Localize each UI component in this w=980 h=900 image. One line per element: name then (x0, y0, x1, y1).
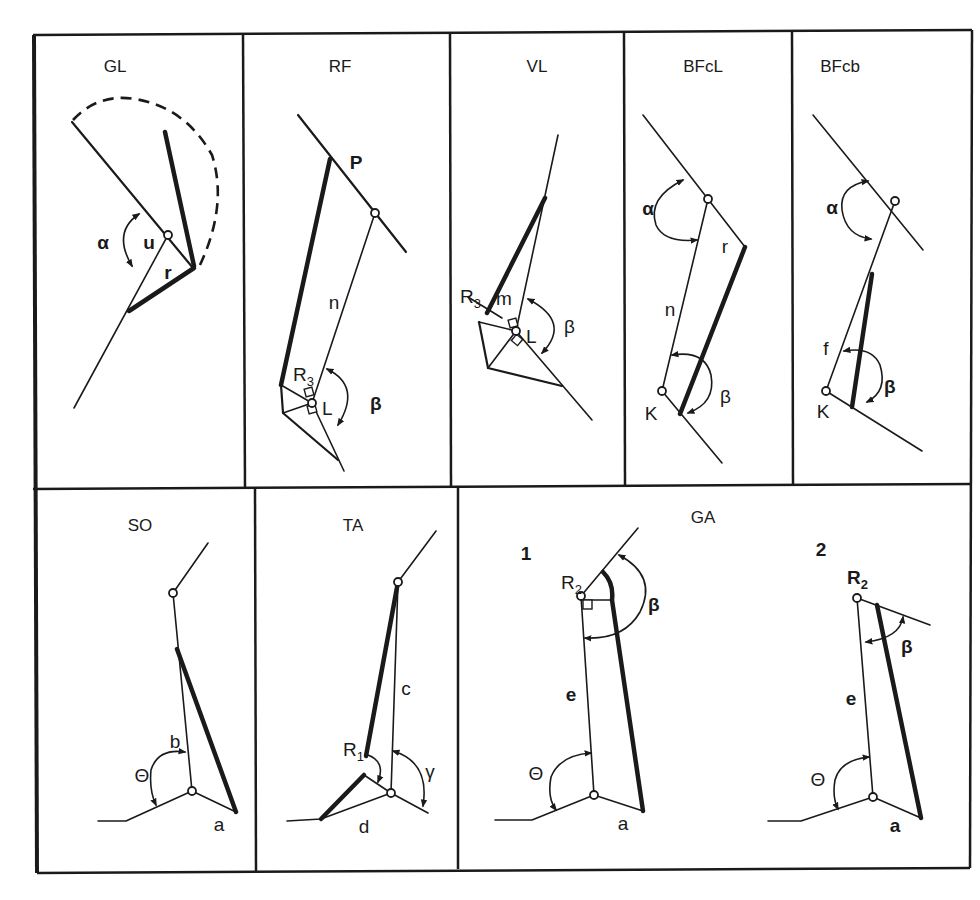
panel-rf: RF P n R3 L β (281, 57, 406, 471)
panel-gl: GL α u r (72, 57, 218, 408)
label-e: e (846, 688, 857, 709)
label-e: e (566, 684, 577, 705)
label-r1: R1 (343, 739, 364, 764)
label-d: d (359, 816, 370, 837)
panel-title-ga: GA (691, 508, 716, 527)
label-k: K (817, 401, 830, 422)
label-alpha: α (97, 232, 109, 253)
label-n: n (329, 292, 340, 313)
panel-so: SO b Θ a (98, 516, 236, 835)
joint-marker (164, 231, 172, 239)
label-r2: R2 (561, 572, 582, 597)
ga-subpanel-2: 2 R2 β e Θ a (768, 539, 930, 836)
panel-bfcb: BFcb α f K β (813, 57, 923, 451)
label-beta: β (370, 393, 382, 414)
panel-title-rf: RF (329, 57, 352, 76)
label-alpha: α (826, 197, 838, 218)
label-r: r (164, 262, 172, 283)
label-p: P (350, 152, 363, 173)
subpanel-number: 1 (521, 543, 532, 564)
panel-title-so: SO (128, 516, 153, 535)
label-n: n (665, 299, 676, 320)
label-r3: R3 (293, 364, 314, 389)
subpanel-number: 2 (816, 539, 827, 560)
label-k: K (645, 403, 658, 424)
label-alpha: α (642, 198, 654, 219)
panel-title-vl: VL (527, 57, 548, 76)
label-r: r (722, 236, 729, 257)
label-f: f (823, 338, 829, 359)
label-l: L (322, 398, 333, 419)
label-beta: β (720, 386, 731, 407)
label-m: m (496, 288, 512, 309)
label-a: a (618, 813, 629, 834)
label-r2: R2 (847, 567, 868, 592)
label-beta: β (884, 376, 896, 397)
panel-ga: GA 1 R2 β e Θ a 2 (495, 508, 930, 836)
label-beta: β (648, 594, 660, 615)
label-beta: β (564, 316, 575, 337)
label-c: c (401, 678, 411, 699)
panel-title-gl: GL (104, 57, 127, 76)
panel-title-bfcb: BFcb (820, 57, 860, 76)
label-l: L (526, 326, 537, 347)
label-theta: Θ (811, 769, 826, 790)
panel-title-bfcl: BFcL (683, 57, 723, 76)
label-r3: R3 (460, 286, 481, 311)
label-beta: β (901, 636, 913, 657)
label-gamma: γ (425, 761, 435, 782)
label-a: a (214, 814, 225, 835)
panel-ta: TA c R1 γ d (287, 516, 436, 837)
label-u: u (143, 232, 155, 253)
panel-bfcl: BFcL α r n K β (642, 57, 745, 463)
label-theta: Θ (529, 763, 544, 784)
panel-vl: VL R3 m L β (460, 57, 592, 420)
label-theta: Θ (135, 765, 150, 786)
ga-subpanel-1: 1 R2 β e Θ a (495, 528, 660, 834)
muscle-geometry-figure: GL α u r RF P n R3 L β VL (0, 0, 980, 900)
panel-title-ta: TA (343, 516, 364, 535)
label-b: b (170, 731, 181, 752)
label-a: a (890, 815, 901, 836)
